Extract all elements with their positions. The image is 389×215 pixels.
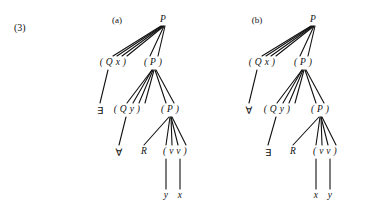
tree-edge bbox=[113, 26, 161, 56]
p-phrase-level2: ( P ) bbox=[144, 58, 162, 68]
tree-edge bbox=[308, 26, 315, 56]
tree-edge bbox=[306, 70, 324, 103]
tree-edge bbox=[133, 70, 152, 103]
qy-phrase: ( Q y ) bbox=[114, 105, 141, 115]
tree-edge bbox=[300, 26, 314, 56]
tree-edge bbox=[271, 26, 313, 56]
tree-edge bbox=[127, 26, 164, 56]
tree-edge bbox=[305, 70, 316, 103]
tree-edge bbox=[117, 26, 162, 56]
tree-edge bbox=[276, 26, 314, 56]
qx-phrase: ( Q x ) bbox=[100, 58, 127, 68]
quantifier-exists: ∃ bbox=[97, 105, 103, 116]
tree-edge bbox=[321, 117, 328, 145]
qx-phrase: ( Q x ) bbox=[249, 58, 276, 68]
tree-edges-layer bbox=[0, 0, 389, 215]
tree-caption: (a) bbox=[112, 15, 122, 25]
tree-edge bbox=[268, 117, 276, 145]
relation-r: R bbox=[290, 147, 296, 157]
tree-edge bbox=[293, 117, 319, 145]
vv-phrase: ( v v ) bbox=[163, 147, 187, 157]
tree-edge bbox=[158, 26, 165, 56]
relation-r: R bbox=[141, 147, 147, 157]
tree-edge bbox=[119, 117, 126, 145]
tree-edge bbox=[249, 70, 257, 103]
tree-edge bbox=[277, 70, 302, 103]
tree-edge bbox=[150, 26, 164, 56]
example-number: (3) bbox=[14, 22, 26, 33]
qy-phrase: ( Q y ) bbox=[264, 105, 291, 115]
tree-edge bbox=[144, 117, 169, 145]
root-p: P bbox=[310, 15, 316, 25]
p-phrase-level3: ( P ) bbox=[311, 105, 329, 115]
tree-edge bbox=[266, 26, 312, 56]
root-p: P bbox=[160, 15, 166, 25]
tree-edge bbox=[289, 70, 303, 103]
tree-edge bbox=[100, 70, 108, 103]
tree-edge bbox=[316, 117, 320, 145]
tree-edge bbox=[171, 117, 178, 145]
tree-edge bbox=[295, 70, 304, 103]
tree-edge bbox=[283, 70, 302, 103]
quantifier-exists: ∃ bbox=[265, 147, 271, 158]
tree-caption: (b) bbox=[252, 15, 263, 25]
p-phrase-level3: ( P ) bbox=[161, 105, 179, 115]
tree-edge bbox=[139, 70, 153, 103]
quantifier-forall: ∀ bbox=[116, 147, 123, 158]
tree-edge bbox=[171, 117, 172, 145]
vv-phrase: ( v v ) bbox=[313, 147, 337, 157]
quantifier-forall: ∀ bbox=[246, 105, 253, 116]
tree-edge bbox=[172, 117, 186, 145]
tree-edge bbox=[145, 70, 154, 103]
leaf-y: y bbox=[164, 191, 169, 201]
leaf-x: x bbox=[314, 191, 319, 201]
tree-edge bbox=[166, 117, 170, 145]
leaf-y: y bbox=[328, 191, 333, 201]
tree-edge bbox=[156, 70, 174, 103]
p-phrase-level2: ( P ) bbox=[294, 58, 312, 68]
figure-container: (3) (a)P( Q x )( P )∃( Q y )( P )∀R( v v… bbox=[0, 0, 389, 215]
tree-edge bbox=[321, 117, 322, 145]
tree-edge bbox=[127, 70, 152, 103]
tree-edge bbox=[155, 70, 166, 103]
tree-edge bbox=[262, 26, 311, 56]
tree-edge bbox=[322, 117, 336, 145]
leaf-x: x bbox=[178, 191, 183, 201]
tree-edge bbox=[122, 26, 163, 56]
